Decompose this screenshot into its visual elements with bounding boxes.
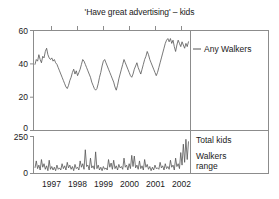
- xtick-label-1999: 1999: [94, 179, 113, 189]
- legend-label-any-walkers: Any Walkers: [204, 44, 251, 54]
- xtick-label-1997: 1997: [42, 179, 61, 189]
- lower-ytick-label-0: 0: [23, 168, 28, 178]
- series-any-walkers: [35, 39, 189, 91]
- xtick-label-1998: 1998: [68, 179, 87, 189]
- xtick-label-2000: 2000: [120, 179, 139, 189]
- legend-label-walkers-range-line2: range: [196, 161, 218, 171]
- lower-panel: 250 0: [14, 132, 190, 179]
- series-total-kids: [35, 139, 189, 170]
- x-axis-labels: 1997 1998 1999 2000 2001 2002: [42, 179, 191, 189]
- xtick-label-2001: 2001: [146, 179, 165, 189]
- upper-ytick-label-60: 60: [19, 26, 29, 36]
- legend-entry-total-kids[interactable]: Total kids: [196, 135, 231, 145]
- legend-panel: Any Walkers Total kids Walkers range: [191, 31, 269, 174]
- upper-ytick-label-40: 40: [19, 59, 29, 69]
- lower-ytick-label-250: 250: [14, 132, 28, 142]
- legend-label-walkers-range-line1: Walkers: [196, 151, 226, 161]
- legend-label-total-kids: Total kids: [196, 135, 231, 145]
- legend-entry-walkers-range[interactable]: Walkers range: [196, 151, 226, 171]
- legend-entry-any-walkers[interactable]: Any Walkers: [193, 44, 251, 54]
- chart-root: 'Have great advertising' – kids: [0, 0, 279, 199]
- chart-plot-area: 60 40 20 0 250 0 1997 1998 1999 2000: [0, 0, 279, 199]
- upper-panel: 60 40 20 0: [19, 26, 190, 133]
- upper-ytick-label-20: 20: [19, 92, 29, 102]
- xtick-label-2002: 2002: [172, 179, 191, 189]
